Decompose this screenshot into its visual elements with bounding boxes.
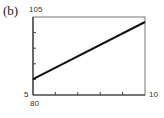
data-line — [33, 22, 145, 79]
plot-area — [0, 0, 164, 118]
plot-frame — [33, 17, 145, 95]
